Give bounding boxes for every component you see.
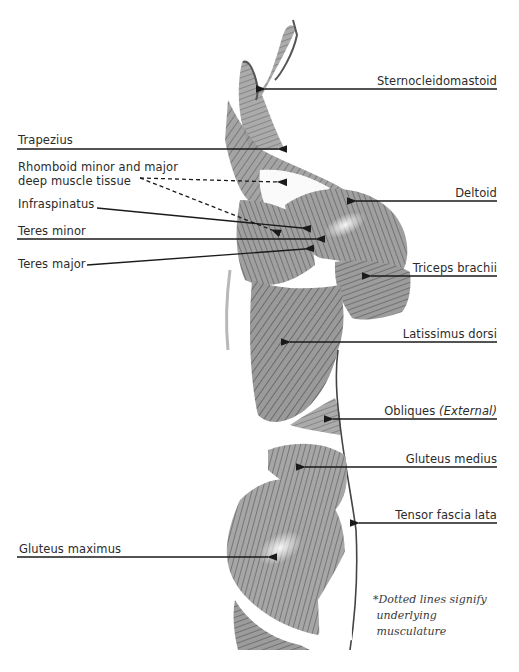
footnote-line2: underlying bbox=[373, 609, 437, 622]
label-obliques: Obliques (External) bbox=[384, 404, 497, 418]
label-obliques-text: Obliques bbox=[384, 404, 435, 418]
label-triceps-brachii: Triceps brachii bbox=[413, 261, 497, 275]
label-gluteus-medius: Gluteus medius bbox=[406, 452, 497, 466]
label-tensor-fascia-lata: Tensor fascia lata bbox=[395, 508, 497, 522]
footnote-dotted-lines: *Dotted lines signify underlying muscula… bbox=[373, 592, 487, 640]
footnote-line3: musculature bbox=[373, 625, 446, 638]
label-deltoid: Deltoid bbox=[455, 186, 497, 200]
label-gluteus-maximus: Gluteus maximus bbox=[19, 542, 121, 556]
label-obliques-qualifier: (External) bbox=[439, 404, 497, 418]
triceps-shape bbox=[335, 260, 411, 319]
label-teres-major: Teres major bbox=[18, 257, 86, 271]
label-infraspinatus: Infraspinatus bbox=[18, 197, 94, 211]
footnote-line1: *Dotted lines signify bbox=[373, 593, 487, 606]
label-sternocleidomastoid: Sternocleidomastoid bbox=[377, 74, 497, 88]
latissimus-shape bbox=[227, 270, 344, 422]
neck-muscles bbox=[239, 20, 297, 150]
anatomy-figure: Trapezius Rhomboid minor and major deep … bbox=[0, 0, 519, 672]
label-rhomboid-line1: Rhomboid minor and major bbox=[18, 160, 178, 174]
label-trapezius: Trapezius bbox=[18, 133, 73, 147]
label-teres-minor: Teres minor bbox=[18, 224, 86, 238]
label-rhomboid-line2: deep muscle tissue bbox=[18, 174, 131, 188]
label-latissimus-dorsi: Latissimus dorsi bbox=[403, 327, 497, 341]
